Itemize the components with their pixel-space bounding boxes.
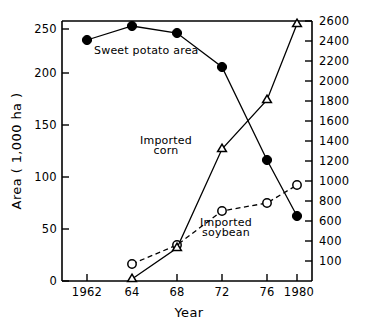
left-tick-label-0: 0 (49, 274, 57, 288)
left-axis-ticks: 0 50 100 150 200 250 (34, 22, 69, 288)
soybean-point-1972 (218, 207, 226, 215)
x-axis-title: Year (173, 305, 203, 320)
x-tick-label-1980: 1980 (284, 285, 314, 299)
soybean-point-1976 (263, 199, 271, 207)
right-tick-label-100: 100 (319, 254, 342, 268)
annotation-sweet-potato-area: Sweet potato area (94, 44, 199, 57)
corn-point-1964 (128, 274, 137, 281)
annotation-imported-soybean-line2: soybean (202, 226, 250, 239)
left-tick-label-50: 50 (42, 222, 57, 236)
sweet-potato-point-1968 (172, 28, 181, 37)
soybean-point-1964 (128, 260, 136, 268)
soybean-point-1980 (293, 181, 301, 189)
left-tick-label-100: 100 (34, 170, 57, 184)
x-tick-label-64: 64 (124, 285, 139, 299)
sweet-potato-point-1964 (127, 21, 136, 30)
right-tick-label-600: 600 (319, 214, 342, 228)
right-tick-label-2600: 2600 (319, 14, 349, 28)
axis-frame (62, 21, 312, 281)
corn-point-1976 (263, 95, 272, 102)
x-tick-label-68: 68 (169, 285, 184, 299)
x-axis-ticks: 1962 64 68 72 76 1980 (72, 274, 314, 299)
sweet-potato-point-1980 (292, 211, 301, 220)
y-axis-title: Area ( 1,000 ha ) (9, 93, 24, 210)
right-tick-label-400: 400 (319, 234, 342, 248)
right-tick-label-1200: 1200 (319, 154, 349, 168)
x-tick-label-1962: 1962 (72, 285, 102, 299)
line-chart: 0 50 100 150 200 250 100 400 600 800 (0, 0, 374, 329)
annotation-imported-corn-line2: corn (154, 144, 179, 157)
right-tick-label-1800: 1800 (319, 94, 349, 108)
right-tick-label-800: 800 (319, 194, 342, 208)
x-tick-label-72: 72 (214, 285, 229, 299)
right-tick-label-1400: 1400 (319, 134, 349, 148)
right-tick-label-1600: 1600 (319, 114, 349, 128)
left-tick-label-200: 200 (34, 66, 57, 80)
sweet-potato-point-1972 (217, 62, 226, 71)
chart-figure: 0 50 100 150 200 250 100 400 600 800 (0, 0, 374, 329)
x-tick-label-76: 76 (259, 285, 274, 299)
right-tick-label-2200: 2200 (319, 54, 349, 68)
right-tick-label-2400: 2400 (319, 34, 349, 48)
right-tick-label-2000: 2000 (319, 74, 349, 88)
sweet-potato-point-1976 (262, 155, 271, 164)
left-tick-label-250: 250 (34, 22, 57, 36)
right-tick-label-1000: 1000 (319, 174, 349, 188)
sweet-potato-point-1962 (82, 35, 91, 44)
left-tick-label-150: 150 (34, 118, 57, 132)
